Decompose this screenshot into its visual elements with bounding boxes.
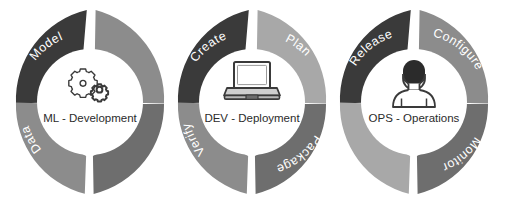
ops-operations-label: OPS - Operations bbox=[369, 112, 460, 124]
ml-development-label: ML - Development bbox=[43, 112, 137, 124]
mlops-lifecycle-diagram: ML - Development Model Data bbox=[0, 0, 505, 205]
hub-ml-development bbox=[37, 49, 143, 155]
ring-ml-development: ML - Development Model Data bbox=[13, 10, 166, 194]
ring-ops-operations: OPS - Operations Release Configure Monit… bbox=[337, 10, 490, 194]
dev-deployment-label: DEV - Deployment bbox=[204, 112, 300, 124]
ring-dev-deployment: DEV - Deployment Create Plan Package Ver… bbox=[175, 10, 328, 194]
diagram-canvas: ML - Development Model Data bbox=[0, 0, 505, 205]
